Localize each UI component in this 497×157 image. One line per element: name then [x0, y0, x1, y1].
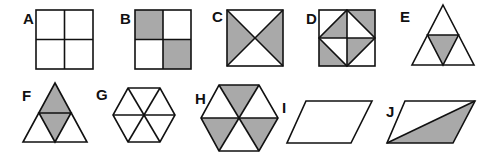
label-c: C — [212, 8, 223, 25]
shape-h: H — [195, 85, 278, 151]
shape-j: J — [386, 101, 475, 143]
label-i: I — [282, 99, 286, 116]
label-h: H — [195, 90, 206, 107]
label-a: A — [23, 10, 34, 27]
label-j: J — [386, 103, 394, 120]
shape-i: I — [282, 99, 372, 143]
shape-e: E — [400, 5, 474, 65]
shapes-figure: A B C D E — [0, 0, 497, 157]
label-g: G — [96, 86, 108, 103]
shape-c: C — [212, 8, 283, 66]
label-b: B — [120, 10, 131, 27]
shape-f: F — [22, 83, 87, 142]
label-d: D — [306, 10, 317, 27]
shape-g: G — [96, 86, 175, 142]
label-f: F — [22, 87, 31, 104]
shape-b: B — [120, 10, 191, 69]
shape-d: D — [306, 10, 375, 66]
shape-a: A — [23, 10, 93, 69]
label-e: E — [400, 8, 410, 25]
